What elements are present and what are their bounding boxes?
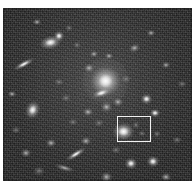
detector-noise-layer-secondary	[3, 8, 192, 181]
astronomical-figure: Greyscale optical image of a rich galaxy…	[0, 0, 192, 181]
region-of-interest-box[interactable]	[117, 116, 151, 142]
sky-image-plate[interactable]	[3, 8, 192, 181]
figure-alt-text: Greyscale optical image of a rich galaxy…	[0, 0, 1, 1]
